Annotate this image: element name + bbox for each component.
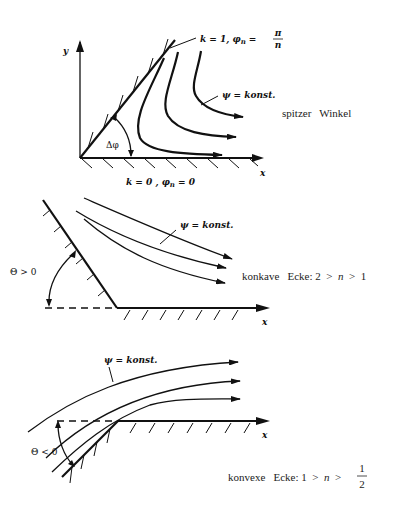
label-leader [201, 96, 218, 105]
angle-label: Δφ [106, 140, 119, 150]
x-axis-arrow-icon [256, 304, 270, 312]
caption-convex-corner: konvexe Ecke: 1 > n > [228, 471, 341, 483]
wall-label-top: k = 1, φn= π n [200, 28, 283, 50]
label-leader [109, 367, 113, 382]
streamline-label: ψ = konst. [104, 355, 157, 365]
streamlines [76, 198, 232, 283]
inclined-wall-hatching [70, 429, 110, 483]
streamlines [28, 362, 240, 472]
caption-fraction-denominator: 2 [359, 478, 365, 490]
flow-diagrams: y x k = 1, [0, 0, 396, 515]
x-axis-label: x [259, 168, 266, 178]
streamline-label: ψ = konst. [222, 90, 275, 100]
angle-arrow-icon [46, 299, 52, 307]
x-axis-arrow-icon [256, 417, 270, 425]
x-axis-arrow-icon [252, 154, 264, 162]
caption-fraction-numerator: 1 [359, 462, 365, 474]
angle-label: Θ < 0 [31, 447, 58, 457]
wall-label-bottom: k = 0 , φn = 0 [126, 177, 196, 189]
horizontal-wall-hatching [130, 423, 250, 433]
y-axis-label: y [62, 46, 69, 56]
bottom-wall-hatching [82, 159, 258, 168]
streamline-label: ψ = konst. [180, 220, 233, 230]
svg-text:π: π [274, 28, 282, 38]
x-axis-label: x [261, 317, 268, 327]
svg-text:n: n [275, 40, 282, 50]
angle-arrow-icon [128, 150, 134, 157]
inclined-wall [43, 200, 117, 308]
caption-sharp-angle: spitzer Winkel [282, 107, 351, 119]
angle-label: Θ > 0 [10, 267, 37, 277]
figure-sharp-angle: y x k = 1, [62, 28, 351, 189]
y-axis-arrow-icon [76, 40, 84, 52]
figure-concave-corner: x Θ > 0 ψ [10, 198, 366, 327]
svg-text:k = 1, φn=: k = 1, φn= [200, 34, 256, 46]
caption-concave-corner: konkave Ecke: 2 > n > 1 [242, 270, 366, 282]
inclined-wall [80, 40, 175, 158]
angle-arc [49, 254, 73, 305]
x-axis-label: x [261, 430, 268, 440]
horizontal-wall-hatching [124, 310, 238, 320]
figure-convex-corner: x Θ < 0 ψ = konst. [28, 355, 367, 490]
